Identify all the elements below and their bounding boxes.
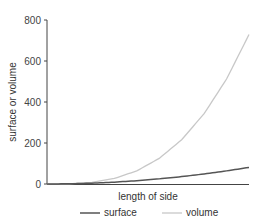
legend-label-surface: surface — [104, 207, 137, 218]
legend: surface volume — [80, 207, 219, 218]
x-axis-label: length of side — [118, 191, 178, 202]
y-axis-ticks: 0200400600800 — [24, 15, 47, 190]
y-tick-label: 600 — [24, 56, 41, 67]
surface-line — [47, 167, 249, 184]
y-tick-label: 200 — [24, 138, 41, 149]
y-tick-label: 800 — [24, 15, 41, 26]
y-axis-label: surface or volume — [7, 62, 18, 142]
chart: 0200400600800 surface or volume length o… — [0, 0, 258, 224]
volume-line — [47, 35, 249, 184]
y-tick-label: 400 — [24, 97, 41, 108]
y-tick-label: 0 — [35, 179, 41, 190]
legend-label-volume: volume — [186, 207, 219, 218]
